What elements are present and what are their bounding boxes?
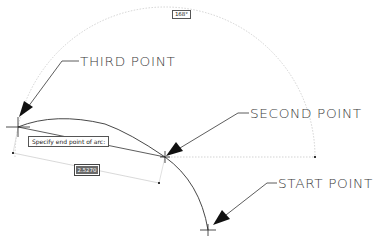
start-point-arrowhead-icon <box>213 210 230 225</box>
third-point-leader <box>28 61 79 107</box>
second-point-leader <box>180 113 249 148</box>
grip-point[interactable] <box>158 182 160 184</box>
third-point-label: THIRD POINT <box>80 55 175 68</box>
start-point-leader <box>226 183 277 215</box>
grip-point[interactable] <box>314 156 316 158</box>
angle-construction-arc <box>15 7 315 157</box>
third-point-crosshair-icon <box>6 117 30 137</box>
angle-label: 168° <box>172 10 191 19</box>
dynamic-input-field[interactable]: 2.5270 <box>74 164 100 176</box>
start-point-label: START POINT <box>278 177 373 190</box>
dimension-extension-line <box>159 157 165 183</box>
grip-point[interactable] <box>12 152 14 154</box>
command-prompt-tooltip: Specify end point of arc: <box>28 136 109 147</box>
second-point-label: SECOND POINT <box>250 107 362 120</box>
dynamic-input-value[interactable]: 2.5270 <box>76 166 98 174</box>
dimension-extension-line <box>13 128 18 153</box>
second-point-arrowhead-icon <box>166 142 183 156</box>
start-point-crosshair-icon <box>200 224 216 236</box>
